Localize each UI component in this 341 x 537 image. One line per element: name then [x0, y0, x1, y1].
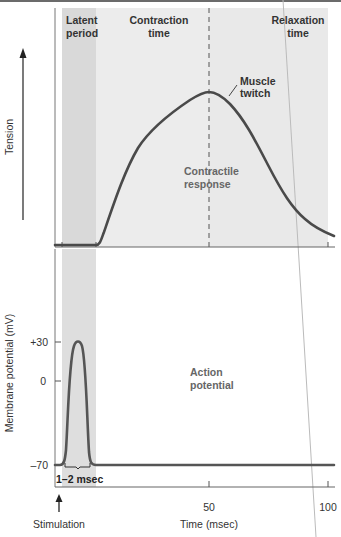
muscle-twitch-label-1: Muscle: [240, 75, 276, 87]
xtick-50: 50: [203, 501, 215, 513]
membrane-potential-axis-label: Membrane potential (mV): [3, 314, 15, 432]
tension-arrow-head: [20, 48, 27, 58]
ytick-plus30: +30: [30, 336, 48, 348]
relaxation-band: [209, 8, 328, 247]
ytick-minus70: –70: [30, 459, 48, 471]
contractile-response-label-2: response: [184, 178, 231, 190]
stimulation-arrow-head: [56, 494, 63, 502]
x-axis-label: Time (msec): [180, 518, 238, 530]
relaxation-time-label-2: time: [287, 27, 309, 39]
latent-period-band: [62, 8, 96, 247]
latent-period-label-2: period: [66, 27, 98, 39]
contraction-time-label-1: Contraction: [130, 14, 189, 26]
latent-period-label-1: Latent: [66, 14, 98, 26]
contraction-band: [96, 8, 209, 247]
contractile-response-label-1: Contractile: [184, 165, 239, 177]
duration-label: 1–2 msec: [56, 473, 103, 485]
action-potential-curve: [55, 342, 334, 466]
xtick-100: 100: [319, 501, 337, 513]
stimulation-label: Stimulation: [33, 518, 85, 530]
action-potential-label-2: potential: [190, 379, 234, 391]
ytick-0: 0: [40, 375, 46, 387]
relaxation-time-label-1: Relaxation: [271, 14, 324, 26]
tension-axis-label: Tension: [3, 119, 15, 155]
twitch-diagram: Latent period Contraction time Relaxatio…: [0, 0, 341, 537]
action-potential-label-1: Action: [190, 366, 223, 378]
contraction-time-label-2: time: [148, 27, 170, 39]
muscle-twitch-label-2: twitch: [240, 87, 270, 99]
